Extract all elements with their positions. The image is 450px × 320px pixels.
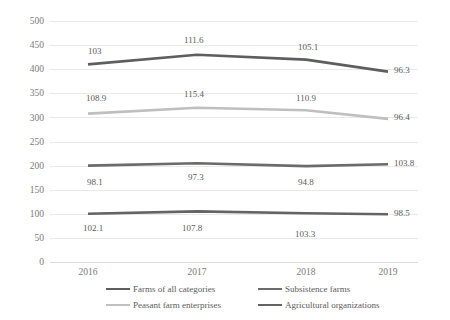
data-label-subsistence-2019: 103.8 — [394, 159, 414, 168]
series-line-farms-of-all-categories — [88, 55, 388, 72]
data-label-subsistence-2017: 97.3 — [188, 173, 204, 182]
legend-label-agricultural-organizations: Agricultural organizations — [285, 301, 380, 310]
data-label-farms-2017: 111.6 — [184, 36, 204, 45]
legend-label-peasant-farm-enterprises: Peasant farm enterprises — [133, 301, 221, 310]
x-tick-2019: 2019 — [358, 268, 418, 278]
legend-label-farms-of-all-categories: Farms of all categories — [133, 285, 215, 294]
data-label-farms-2018: 105.1 — [298, 43, 318, 52]
x-tick-2017: 2017 — [167, 268, 227, 278]
y-tick-150: 150 — [10, 186, 44, 196]
y-tick-250: 250 — [10, 138, 44, 148]
data-label-subsistence-2018: 94.8 — [298, 178, 314, 187]
legend-item-agricultural-organizations[interactable]: Agricultural organizations — [258, 301, 396, 310]
series-line-agricultural-organizations — [88, 211, 388, 214]
data-label-agricultural-2018: 103.3 — [295, 230, 315, 239]
y-tick-50: 50 — [10, 234, 44, 244]
data-label-peasant-2017: 115.4 — [184, 90, 204, 99]
data-label-subsistence-2016: 98.1 — [87, 178, 103, 187]
series-line-subsistence-farms — [88, 163, 388, 166]
data-label-agricultural-2016: 102.1 — [83, 224, 103, 233]
y-tick-350: 350 — [10, 89, 44, 99]
legend-label-subsistence-farms: Subsistence farms — [285, 285, 350, 294]
series-line-peasant-farm-enterprises — [88, 108, 388, 119]
data-label-agricultural-2017: 107.8 — [182, 224, 202, 233]
y-tick-100: 100 — [10, 210, 44, 220]
y-tick-200: 200 — [10, 162, 44, 172]
legend-swatch-icon-farms-of-all-categories — [106, 288, 130, 291]
chart-legend: Farms of all categories Subsistence farm… — [106, 281, 396, 313]
data-label-peasant-2016: 108.9 — [86, 94, 106, 103]
legend-item-farms-of-all-categories[interactable]: Farms of all categories — [106, 285, 258, 294]
y-tick-300: 300 — [10, 114, 44, 124]
axis-baseline — [50, 262, 418, 263]
data-label-farms-2016: 103 — [88, 47, 102, 56]
legend-swatch-icon-peasant-farm-enterprises — [106, 304, 130, 307]
legend-swatch-icon-agricultural-organizations — [258, 304, 282, 307]
y-tick-400: 400 — [10, 65, 44, 75]
x-tick-2016: 2016 — [58, 268, 118, 278]
data-label-peasant-2018: 110.9 — [296, 94, 316, 103]
y-tick-450: 450 — [10, 41, 44, 51]
plot-area: 103 111.6 105.1 96.3 108.9 115.4 110.9 9… — [50, 21, 418, 262]
data-label-agricultural-2019: 98.5 — [394, 209, 410, 218]
data-label-farms-2019: 96.3 — [394, 66, 410, 75]
legend-swatch-icon-subsistence-farms — [258, 288, 282, 291]
y-tick-500: 500 — [10, 17, 44, 27]
x-tick-2018: 2018 — [276, 268, 336, 278]
series-lines — [50, 21, 418, 262]
y-tick-0: 0 — [10, 258, 44, 268]
legend-item-peasant-farm-enterprises[interactable]: Peasant farm enterprises — [106, 301, 258, 310]
legend-item-subsistence-farms[interactable]: Subsistence farms — [258, 285, 396, 294]
line-chart: 500 450 400 350 300 250 200 150 100 50 0 — [0, 0, 450, 320]
data-label-peasant-2019: 96.4 — [394, 113, 410, 122]
